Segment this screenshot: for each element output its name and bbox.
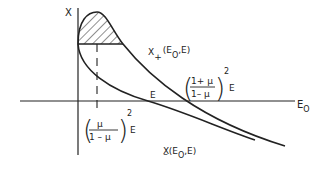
upper-formula-exponent: 2 bbox=[224, 67, 229, 76]
upper-formula-numerator: 1+ μ bbox=[191, 76, 213, 86]
right-paren-icon: ) bbox=[215, 73, 225, 103]
x-plus-label: X+(EO,E) bbox=[148, 45, 190, 62]
x-plus-args-tail: ,E) bbox=[178, 45, 190, 55]
lower-formula-suffix: E bbox=[130, 125, 136, 135]
x-plus-sub: + bbox=[154, 52, 162, 62]
x-axis-label: EO bbox=[297, 99, 310, 114]
lower-formula-numerator: μ bbox=[97, 119, 103, 129]
upper-intercept-formula: ( 1+ μ 1– μ ) 2 E bbox=[183, 67, 235, 103]
x-axis-label-sub: O bbox=[303, 105, 309, 114]
lower-formula-exponent: 2 bbox=[127, 109, 132, 118]
x-minus-label: X–(EO,E) bbox=[163, 146, 196, 160]
upper-formula-suffix: E bbox=[229, 83, 235, 93]
x-minus-args: (E bbox=[169, 146, 179, 156]
lower-formula-denominator: 1 – μ bbox=[89, 132, 111, 142]
x-plus-args: (E bbox=[163, 45, 173, 55]
diagram-canvas: X EO X+(EO,E) X–(EO,E) E ( 1+ μ 1– μ ) 2… bbox=[0, 0, 318, 169]
y-axis-label: X bbox=[65, 7, 72, 18]
x-minus-args-tail: ,E) bbox=[184, 146, 196, 156]
upper-formula-denominator: 1– μ bbox=[191, 89, 210, 99]
intercept-label: E bbox=[150, 90, 156, 100]
x-minus-sub: – bbox=[163, 149, 168, 159]
right-paren-icon: ) bbox=[118, 115, 128, 145]
lower-marker-formula: ( μ 1 – μ ) 2 E bbox=[83, 109, 136, 145]
